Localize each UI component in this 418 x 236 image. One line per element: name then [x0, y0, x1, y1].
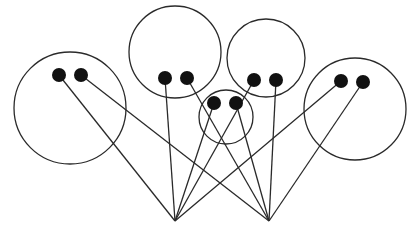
- edge-g3b-to-B: [269, 80, 276, 221]
- group-circle-g2: [129, 6, 221, 98]
- node-dot-g3b: [269, 73, 283, 87]
- node-dot-g5b: [356, 75, 370, 89]
- group-circle-g4: [199, 90, 253, 144]
- node-dot-g4a: [207, 96, 221, 110]
- node-dot-g3a: [247, 73, 261, 87]
- node-dot-g2a: [158, 71, 172, 85]
- node-dot-g1a: [52, 68, 66, 82]
- group-circle-g3: [227, 19, 305, 97]
- node-dot-g5a: [334, 74, 348, 88]
- group-circles: [14, 6, 406, 164]
- group-circle-g5: [304, 58, 406, 160]
- group-circle-g1: [14, 52, 126, 164]
- edge-g2a-to-A: [165, 78, 175, 221]
- edge-g1a-to-A: [59, 75, 175, 221]
- node-dot-g2b: [180, 71, 194, 85]
- node-dot-g1b: [74, 68, 88, 82]
- bipartite-circle-diagram: [0, 0, 418, 236]
- node-dot-g4b: [229, 96, 243, 110]
